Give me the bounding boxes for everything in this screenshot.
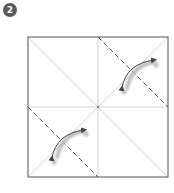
diagram-canvas: 2 — [0, 0, 174, 193]
origami-fold-diagram — [0, 0, 174, 193]
center-point — [97, 106, 99, 108]
bottom-left-fold-arrow — [52, 130, 89, 165]
top-right-fold-arrow — [122, 60, 159, 95]
